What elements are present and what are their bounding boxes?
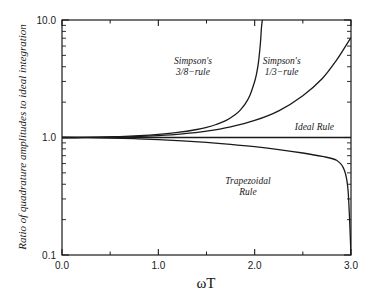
annotation-line: Simpson's	[174, 56, 212, 66]
figure-container: 0.01.02.03.00.11.010.0 Simpson's3/8−rule…	[0, 0, 366, 299]
x-tick-label: 2.0	[248, 260, 262, 271]
x-tick-label: 3.0	[344, 260, 358, 271]
annotation-line: Trapezoidal	[225, 176, 271, 186]
y-axis-title: Ratio of quadrature amplitudes to ideal …	[16, 24, 28, 251]
x-tick-label: 0.0	[55, 260, 69, 271]
annotation-line: Rule	[238, 187, 256, 197]
x-axis-title: ωT	[196, 275, 215, 291]
annotation-line: Simpson's	[263, 56, 301, 66]
annotation: Simpson's3/8−rule	[174, 56, 212, 77]
x-tick-label: 1.0	[151, 260, 165, 271]
annotation-line: 3/8−rule	[175, 67, 210, 77]
y-tick-label: 10.0	[37, 15, 57, 26]
annotation-line: Ideal Rule	[294, 122, 334, 132]
annotation: Simpson's1/3−rule	[263, 56, 301, 77]
quadrature-amplitude-ratio-chart: 0.01.02.03.00.11.010.0 Simpson's3/8−rule…	[0, 0, 366, 299]
y-tick-label: 0.1	[42, 250, 56, 261]
annotation-line: 1/3−rule	[265, 67, 299, 77]
annotation: Ideal Rule	[294, 122, 334, 132]
y-tick-label: 1.0	[42, 132, 56, 143]
